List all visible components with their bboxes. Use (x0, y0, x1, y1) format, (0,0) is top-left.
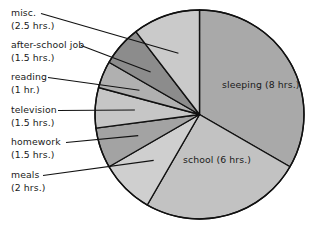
callout-label-reading: reading (1 hr.) (11, 71, 47, 96)
pie-chart-figure: misc. (2.5 hrs.) after-school job (1.5 h… (0, 0, 311, 229)
callout-label-after-school-job-name: after-school job (11, 39, 84, 50)
callout-label-after-school-job: after-school job (1.5 hrs.) (11, 39, 84, 64)
callout-label-reading-name: reading (11, 71, 47, 82)
callout-label-misc: misc. (2.5 hrs.) (11, 7, 55, 32)
callout-label-homework-value: (1.5 hrs.) (11, 149, 61, 162)
slice-label-school: school (6 hrs.) (183, 154, 241, 167)
callout-label-homework-name: homework (11, 136, 61, 147)
callout-label-television: television (1.5 hrs.) (11, 104, 57, 129)
pie-slices-group (95, 10, 304, 219)
callout-label-television-name: television (11, 104, 57, 115)
callout-label-after-school-job-value: (1.5 hrs.) (11, 52, 84, 65)
callout-label-meals-name: meals (11, 169, 39, 180)
slice-label-school-name: school (183, 154, 213, 165)
slice-label-sleeping-value: (8 hrs.) (265, 79, 299, 90)
callout-label-television-value: (1.5 hrs.) (11, 117, 57, 130)
slice-label-sleeping: sleeping (8 hrs.) (222, 79, 284, 92)
slice-label-school-value: (6 hrs.) (216, 154, 250, 165)
callout-label-reading-value: (1 hr.) (11, 84, 47, 97)
callout-label-meals-value: (2 hrs.) (11, 182, 45, 195)
slice-label-sleeping-name: sleeping (222, 79, 262, 90)
callout-label-misc-value: (2.5 hrs.) (11, 20, 55, 33)
callout-label-misc-name: misc. (11, 7, 36, 18)
leader-line-television (58, 110, 135, 111)
callout-label-homework: homework (1.5 hrs.) (11, 136, 61, 161)
callout-label-meals: meals (2 hrs.) (11, 169, 45, 194)
